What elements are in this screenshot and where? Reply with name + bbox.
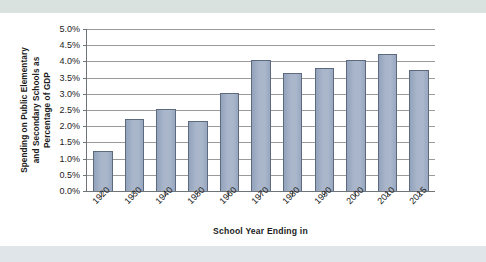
bar [409,70,429,191]
bar-slot [87,29,119,191]
bar-slot [308,29,340,191]
bar-slot [340,29,372,191]
chart-figure: Spending on Public Elementary and Second… [0,13,486,246]
bar [125,119,145,191]
bar-slot [214,29,246,191]
bar-slot [150,29,182,191]
bar [315,68,335,191]
y-axis-tick-label: 1.5% [46,137,80,147]
x-axis-title: School Year Ending in [86,226,435,236]
bar [156,109,176,191]
y-axis-tick-label: 2.0% [46,121,80,131]
y-axis-tick-label: 4.0% [46,56,80,66]
y-axis-title-line-1: Spending on Public Elementary [20,47,29,173]
y-axis-tick-label: 0.0% [46,186,80,196]
bar [378,54,398,191]
bar-slot [245,29,277,191]
y-axis-tick-label: 2.5% [46,105,80,115]
bar-slot [277,29,309,191]
bar [251,60,271,191]
y-axis-tick-label: 1.0% [46,154,80,164]
plot-area [86,29,435,192]
bar-slot [119,29,151,191]
y-axis-title-line-2: and Secondary Schools as [31,57,40,164]
scan-band-bottom [0,246,486,262]
bar [346,60,366,191]
y-axis-tick-label: 0.5% [46,170,80,180]
y-axis-tick-label: 3.5% [46,73,80,83]
scan-band-top [0,0,486,13]
bar-series [87,29,435,191]
y-axis-tick-label: 3.0% [46,89,80,99]
bar [220,93,240,191]
y-axis-tick-label: 4.5% [46,40,80,50]
bar-slot [182,29,214,191]
chart-page: Spending on Public Elementary and Second… [0,0,486,262]
bar-slot [372,29,404,191]
bar [188,121,208,191]
bar-slot [403,29,435,191]
bar [283,73,303,191]
y-axis-tick-label: 5.0% [46,24,80,34]
